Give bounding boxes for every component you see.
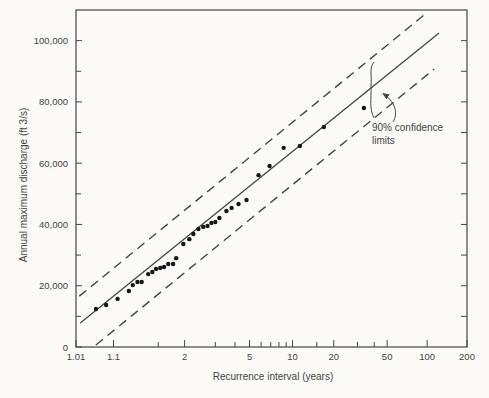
data-point	[139, 280, 143, 284]
data-point	[217, 216, 221, 220]
confidence-annotation-line1: 90% confidence	[372, 122, 444, 133]
x-tick-label: 100	[419, 351, 435, 362]
data-point	[236, 202, 240, 206]
data-point	[166, 262, 170, 266]
x-tick-label: 50	[382, 351, 393, 362]
annotation-arrow	[383, 94, 396, 123]
plot-frame	[76, 10, 467, 347]
data-point	[135, 280, 139, 284]
data-point	[362, 106, 366, 110]
flood-frequency-chart: 1.011.125102050100200020,00040,00060,000…	[0, 0, 489, 398]
y-tick-label: 20,000	[39, 280, 68, 291]
x-tick-label: 200	[459, 351, 475, 362]
fitted-line	[80, 33, 439, 323]
data-point	[115, 297, 119, 301]
data-point	[229, 206, 233, 210]
x-tick-label: 20	[328, 351, 339, 362]
data-point	[104, 303, 108, 307]
upper-confidence-line	[79, 15, 424, 296]
data-point	[322, 125, 326, 129]
data-point	[244, 198, 248, 202]
data-point	[131, 283, 135, 287]
data-point	[154, 267, 158, 271]
flood-frequency-figure: 1.011.125102050100200020,00040,00060,000…	[0, 0, 489, 398]
data-point	[162, 265, 166, 269]
x-tick-label: 1.01	[67, 351, 86, 362]
data-point	[298, 144, 302, 148]
x-tick-label: 1.1	[107, 351, 120, 362]
y-tick-label: 0	[63, 342, 68, 353]
y-tick-label: 80,000	[39, 96, 68, 107]
data-point	[267, 164, 271, 168]
data-point	[94, 307, 98, 311]
y-tick-label: 40,000	[39, 219, 68, 230]
data-point	[150, 270, 154, 274]
data-point	[146, 272, 150, 276]
y-tick-label: 60,000	[39, 158, 68, 169]
x-tick-label: 10	[287, 351, 298, 362]
data-point	[281, 146, 285, 150]
data-point	[205, 224, 209, 228]
x-tick-label: 5	[247, 351, 252, 362]
confidence-annotation-line2: limits	[372, 135, 395, 146]
annotation-bracket	[371, 62, 374, 118]
data-point	[191, 232, 195, 236]
data-point	[187, 237, 191, 241]
plot-area: 1.011.125102050100200020,00040,00060,000…	[34, 10, 475, 362]
data-point	[171, 262, 175, 266]
data-point	[158, 266, 162, 270]
data-point	[213, 220, 217, 224]
data-point	[181, 242, 185, 246]
data-point	[127, 289, 131, 293]
x-tick-label: 2	[182, 351, 187, 362]
lower-confidence-line	[96, 69, 434, 345]
x-axis-title: Recurrence interval (years)	[213, 371, 334, 382]
data-point	[224, 209, 228, 213]
data-point	[174, 256, 178, 260]
y-axis-title: Annual maximum discharge (ft 3/s)	[18, 108, 29, 263]
data-point	[256, 173, 260, 177]
data-point	[201, 225, 205, 229]
y-tick-label: 100,000	[34, 35, 68, 46]
data-point	[196, 227, 200, 231]
data-point	[209, 221, 213, 225]
